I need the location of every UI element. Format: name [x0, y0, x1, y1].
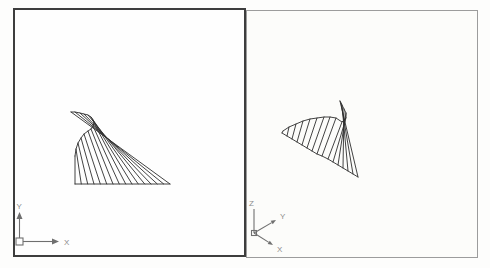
- viewport-plan-active[interactable]: [13, 8, 246, 257]
- viewport-isometric[interactable]: [246, 10, 478, 258]
- drawing-area: Y X Z Y X: [0, 0, 490, 268]
